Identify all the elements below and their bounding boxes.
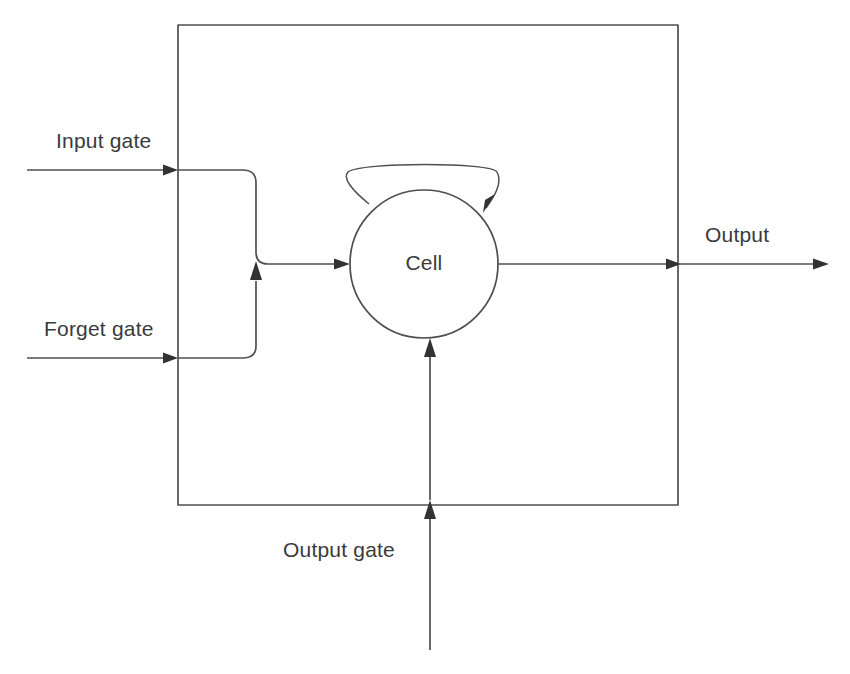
forget-gate-arrowhead bbox=[163, 353, 178, 364]
cell-input-arrowhead bbox=[334, 259, 350, 270]
forget-gate-label: Forget gate bbox=[44, 317, 154, 341]
input-gate-label: Input gate bbox=[56, 129, 151, 153]
output-end-arrowhead bbox=[813, 259, 829, 270]
cell-self-loop bbox=[346, 165, 499, 214]
input-gate-arrowhead bbox=[163, 165, 178, 176]
cell-label: Cell bbox=[350, 251, 498, 275]
gate-merge-bus bbox=[178, 170, 350, 358]
output-gate-cell-arrowhead bbox=[424, 338, 436, 357]
forget-gate-arrow bbox=[27, 353, 178, 364]
output-gate-border-arrowhead bbox=[424, 500, 436, 519]
output-label: Output bbox=[705, 223, 769, 247]
input-gate-arrow bbox=[27, 165, 178, 176]
output-arrow bbox=[498, 259, 829, 270]
output-gate-arrow bbox=[424, 338, 436, 650]
output-gate-label: Output gate bbox=[283, 538, 395, 562]
lstm-cell-diagram: Input gate Forget gate Output gate Outpu… bbox=[0, 0, 850, 674]
gate-merge-arrowhead bbox=[250, 261, 262, 280]
